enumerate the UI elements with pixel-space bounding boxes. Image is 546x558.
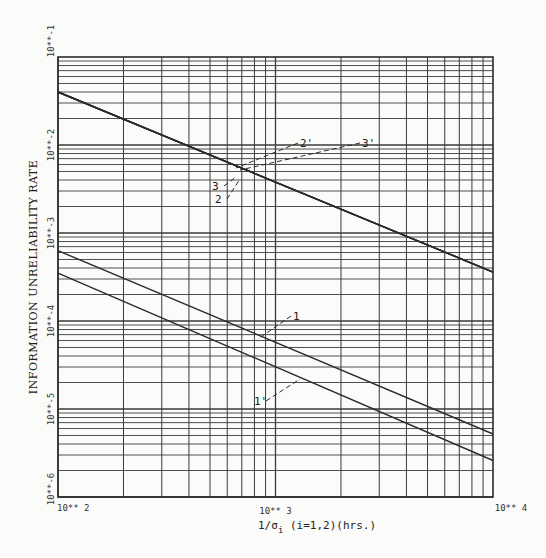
y-tick-label: 10**-6 — [46, 473, 56, 506]
y-tick-label: 10**-1 — [46, 25, 56, 58]
annotation-leaders — [224, 143, 360, 401]
curve-label: 3 — [212, 180, 219, 193]
y-axis-title: INFORMATION UNRELIABILITY RATE — [27, 160, 40, 394]
log-log-chart: 2'3'3211' 10**-110**-210**-310**-410**-5… — [0, 0, 546, 558]
x-tick-label: 10** 2 — [57, 503, 90, 513]
grid-lines — [58, 57, 493, 497]
leader-line — [227, 179, 240, 199]
y-tick-label: 10**-3 — [46, 217, 56, 250]
x-tick-label: 10** 3 — [259, 506, 292, 516]
x-axis-title: 1/σi (i=1,2)(hrs.) — [258, 519, 376, 535]
curve-label: 2' — [300, 137, 313, 150]
x-axis-title-suffix: (i=1,2)(hrs.) — [283, 519, 376, 532]
y-tick-label: 10**-4 — [46, 305, 56, 338]
leader-line — [258, 316, 291, 339]
y-tick-labels: 10**-110**-210**-310**-410**-510**-6 — [46, 25, 56, 506]
curve-label: 2 — [215, 193, 222, 206]
x-tick-label: 10** 4 — [495, 503, 528, 513]
curve-label: 3' — [362, 137, 375, 150]
y-tick-label: 10**-2 — [46, 129, 56, 162]
leader-line — [224, 177, 236, 186]
x-tick-labels: 10** 210** 310** 4 — [57, 503, 527, 516]
y-tick-label: 10**-5 — [46, 393, 56, 426]
curve-label: 1' — [254, 395, 267, 408]
x-axis-title-prefix: 1/σ — [258, 519, 278, 532]
curve-label: 1 — [293, 310, 300, 323]
